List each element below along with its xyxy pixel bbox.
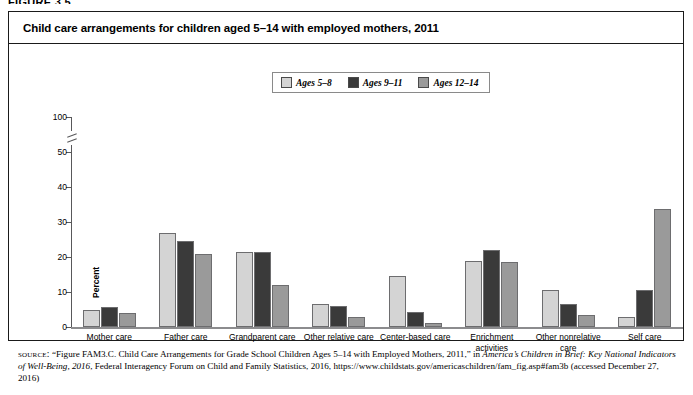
bar	[636, 290, 653, 327]
bar	[119, 313, 136, 327]
bar	[389, 276, 406, 327]
x-axis-tick-label: Center-based care	[377, 332, 454, 343]
legend-label: Ages 5–8	[296, 78, 332, 88]
source-text-1: “Figure FAM3.C. Child Care Arrangements …	[50, 349, 483, 359]
figure-number-label: FIGURE 3.5	[8, 0, 71, 4]
bar	[654, 209, 671, 327]
title-divider	[9, 43, 683, 44]
bar	[578, 315, 595, 327]
bar-group	[607, 112, 684, 327]
bar	[483, 250, 500, 327]
bar	[501, 262, 518, 327]
bar-group	[301, 112, 378, 327]
y-axis-tick-label: 100	[53, 112, 67, 122]
figure-frame: Child care arrangements for children age…	[8, 11, 684, 341]
y-axis-tick-label: 50	[58, 147, 67, 157]
bar	[542, 290, 559, 327]
bar-group	[454, 112, 531, 327]
bar-group	[224, 112, 301, 327]
page-title: Child care arrangements for children age…	[23, 22, 439, 34]
bar	[236, 252, 253, 327]
bar	[348, 317, 365, 328]
y-axis-tick-label: 0	[62, 322, 67, 332]
y-axis-tick-label: 10	[58, 287, 67, 297]
legend-label: Ages 12–14	[433, 78, 478, 88]
legend-swatch-icon	[281, 77, 292, 88]
legend-entry: Ages 12–14	[418, 77, 478, 88]
legend-label: Ages 9–11	[363, 78, 403, 88]
bar	[272, 285, 289, 327]
legend-swatch-icon	[418, 77, 429, 88]
x-axis-tick-label: Mother care	[71, 332, 148, 343]
bar	[177, 241, 194, 327]
x-axis-line	[71, 327, 683, 329]
bar	[312, 304, 329, 327]
bar	[195, 254, 212, 328]
y-axis-tick-label: 20	[58, 252, 67, 262]
bar	[618, 317, 635, 328]
bar	[425, 323, 442, 327]
bar-group	[71, 112, 148, 327]
bar-group	[148, 112, 225, 327]
source-label: source:	[18, 348, 50, 359]
source-note: source: “Figure FAM3.C. Child Care Arran…	[18, 348, 678, 385]
bar	[330, 306, 347, 327]
bar	[101, 307, 118, 327]
bar	[159, 233, 176, 328]
source-text-2: , Federal Interagency Forum on Child and…	[18, 361, 659, 383]
bar-group	[530, 112, 607, 327]
bar	[560, 304, 577, 327]
y-axis-tick-label: 30	[58, 217, 67, 227]
x-axis-tick-label: Other relative care	[301, 332, 378, 343]
chart-legend: Ages 5–8Ages 9–11Ages 12–14	[272, 72, 490, 93]
bar	[83, 310, 100, 328]
x-axis-tick-label: Father care	[148, 332, 225, 343]
plot-area: Percent 01020304050100 Mother careFather…	[71, 112, 684, 328]
bar	[465, 261, 482, 328]
legend-swatch-icon	[348, 77, 359, 88]
x-axis-tick-label: Grandparent care	[224, 332, 301, 343]
y-axis-tick-label: 40	[58, 182, 67, 192]
bar	[407, 312, 424, 327]
legend-entry: Ages 5–8	[281, 77, 332, 88]
legend-entry: Ages 9–11	[348, 77, 403, 88]
bar	[254, 252, 271, 327]
bar-group	[377, 112, 454, 327]
x-axis-tick-label: Self care	[607, 332, 684, 343]
